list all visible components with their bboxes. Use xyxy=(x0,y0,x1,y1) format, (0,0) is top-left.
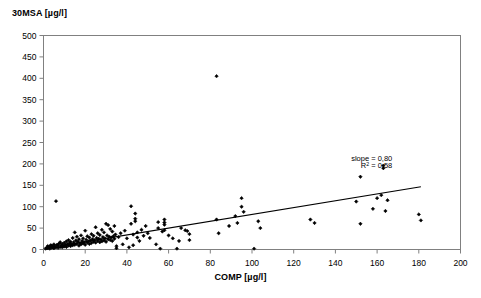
x-tick-label: 0 xyxy=(41,258,46,268)
y-tick-label: 200 xyxy=(22,159,36,169)
y-tick-label: 450 xyxy=(22,52,36,62)
x-tick-label: 180 xyxy=(412,258,426,268)
y-tick-label: 350 xyxy=(22,95,36,105)
y-axis-tick-labels: 050100150200250300350400450500 xyxy=(22,31,36,255)
plot-area-border xyxy=(44,36,461,250)
x-tick-label: 60 xyxy=(164,258,174,268)
y-tick-label: 0 xyxy=(32,245,37,255)
y-axis-ticks xyxy=(40,36,44,250)
y-tick-label: 300 xyxy=(22,116,36,126)
x-tick-label: 200 xyxy=(453,258,467,268)
y-tick-label: 250 xyxy=(22,138,36,148)
x-tick-label: 140 xyxy=(328,258,342,268)
x-tick-label: 80 xyxy=(206,258,216,268)
x-tick-label: 20 xyxy=(80,258,90,268)
plot-box xyxy=(44,36,461,250)
x-axis-tick-labels: 020406080100120140160180200 xyxy=(41,258,468,268)
x-axis-ticks xyxy=(44,250,461,254)
scatter-chart: 30MSA [µg/l] 050100150200250300350400450… xyxy=(0,0,481,298)
y-tick-label: 400 xyxy=(22,73,36,83)
plot-canvas: 050100150200250300350400450500 020406080… xyxy=(0,0,481,298)
y-tick-label: 150 xyxy=(22,180,36,190)
y-tick-label: 100 xyxy=(22,202,36,212)
y-tick-label: 50 xyxy=(27,223,37,233)
x-tick-label: 40 xyxy=(122,258,132,268)
r-squared-annotation: R2 = 0,58 xyxy=(361,161,392,171)
x-tick-label: 160 xyxy=(370,258,384,268)
x-tick-label: 120 xyxy=(287,258,301,268)
x-tick-label: 100 xyxy=(245,258,259,268)
r2-value: = 0,58 xyxy=(369,161,392,170)
y-tick-label: 500 xyxy=(22,31,36,41)
x-axis-title: COMP [µg/l] xyxy=(0,272,481,282)
